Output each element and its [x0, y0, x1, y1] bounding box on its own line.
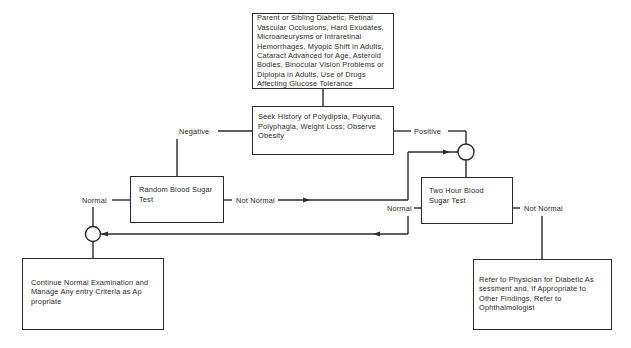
- node-risk-factors: Parent or Sibling Diabetic, Retinal Vasc…: [252, 13, 394, 89]
- node-refer-text: Refer to Physician for Diabetic As sessm…: [479, 275, 606, 313]
- edge-label-two-hour-not-normal: Not Normal: [524, 204, 563, 213]
- arrowhead-random-not-normal: [303, 198, 310, 203]
- arrowhead-two-hour-normal: [373, 232, 380, 237]
- node-random-test-text: Random Blood Sugar Test: [139, 185, 215, 204]
- node-two-hour-test: Two Hour Blood Sugar Test: [421, 177, 513, 224]
- edge-label-two-hour-normal: Normal: [387, 204, 412, 213]
- arrowhead-to-left-circle: [101, 232, 108, 237]
- node-two-hour-test-text: Two Hour Blood Sugar Test: [429, 186, 505, 205]
- junction-circle-right: [458, 144, 474, 160]
- node-refer: Refer to Physician for Diabetic As sessm…: [473, 259, 612, 330]
- node-history: Seek History of Polydipsia, Polyuria, Po…: [252, 106, 394, 155]
- node-random-test: Random Blood Sugar Test: [130, 176, 224, 223]
- edge-label-random-normal: Normal: [82, 196, 107, 205]
- edge-label-positive: Positive: [414, 127, 441, 136]
- node-continue-exam-text: Continue Normal Examination and Manage A…: [31, 278, 155, 306]
- edge-label-random-not-normal: Not Normal: [236, 196, 275, 205]
- junction-circle-left: [86, 227, 101, 242]
- arrowhead-to-right-circle: [443, 150, 450, 155]
- edge-label-negative: Negative: [179, 127, 209, 136]
- node-risk-factors-text: Parent or Sibling Diabetic, Retinal Vasc…: [257, 13, 389, 88]
- node-continue-exam: Continue Normal Examination and Manage A…: [22, 258, 164, 330]
- node-history-text: Seek History of Polydipsia, Polyuria, Po…: [258, 112, 388, 140]
